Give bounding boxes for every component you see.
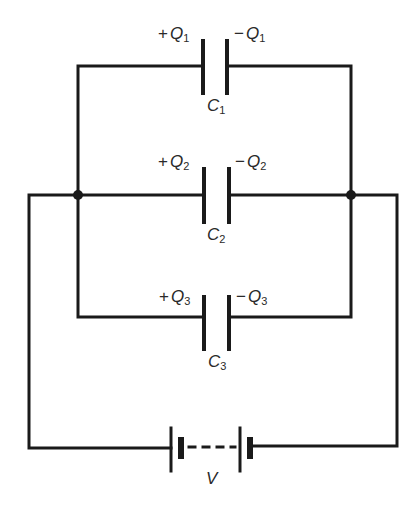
capacitor-label-c3: C3: [208, 353, 226, 372]
battery-voltage-label: V: [206, 470, 217, 487]
junction-node-left: [73, 190, 83, 200]
circuit-diagram: [0, 0, 418, 512]
junction-node-right: [346, 190, 356, 200]
charge-label-minus-q2: −Q2: [235, 153, 266, 172]
capacitor-c1-branch: [78, 41, 351, 195]
charge-label-plus-q1: +Q1: [158, 25, 189, 44]
battery-symbol: [171, 428, 253, 471]
capacitor-c3-branch: [78, 195, 351, 349]
charge-label-minus-q3: −Q3: [236, 288, 267, 307]
charge-label-minus-q1: −Q1: [234, 25, 265, 44]
capacitor-c2-branch: [78, 169, 351, 222]
capacitor-label-c1: C1: [207, 97, 225, 116]
charge-label-plus-q3: +Q3: [159, 288, 190, 307]
capacitor-label-c2: C2: [207, 226, 225, 245]
charge-label-plus-q2: +Q2: [158, 153, 189, 172]
